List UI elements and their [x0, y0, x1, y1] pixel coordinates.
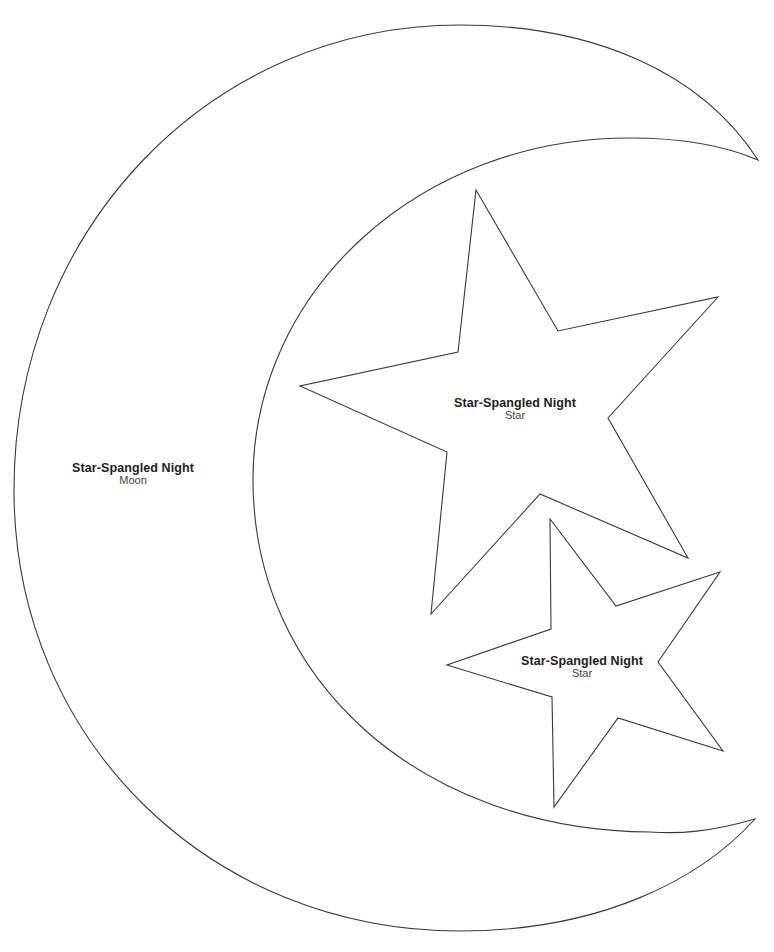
- moon-label-subtitle: Moon: [72, 475, 194, 487]
- small-star-label: Star-Spangled Night Star: [521, 655, 643, 680]
- moon-label: Star-Spangled Night Moon: [72, 462, 194, 487]
- small-star-label-subtitle: Star: [521, 668, 643, 680]
- large-star-label-subtitle: Star: [454, 410, 576, 422]
- large-star-label: Star-Spangled Night Star: [454, 397, 576, 422]
